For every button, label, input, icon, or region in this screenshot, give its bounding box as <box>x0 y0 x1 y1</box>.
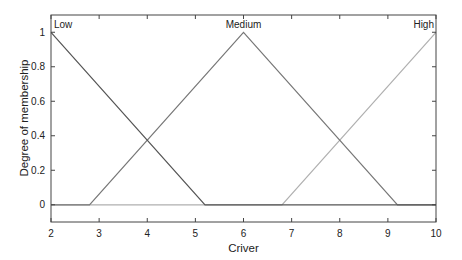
y-tick-label: 0.4 <box>31 130 45 141</box>
axes-frame <box>51 15 436 222</box>
series-lines <box>51 32 436 205</box>
x-tick-label: 7 <box>289 228 295 239</box>
mf-label-medium: Medium <box>226 19 262 30</box>
series-high <box>51 32 436 205</box>
x-tick-label: 4 <box>144 228 150 239</box>
x-tick-label: 8 <box>337 228 343 239</box>
x-tick-label: 9 <box>385 228 391 239</box>
series-medium <box>51 32 436 205</box>
mf-label-low: Low <box>54 19 73 30</box>
x-tick-label: 5 <box>193 228 199 239</box>
y-tick-label: 0.2 <box>31 165 45 176</box>
y-axis-label: Degree of membership <box>18 60 30 177</box>
mf-labels: LowMediumHigh <box>54 19 434 30</box>
series-low <box>51 32 436 205</box>
membership-chart: 2345678910 00.20.40.60.81 LowMediumHigh … <box>0 0 462 260</box>
y-axis-ticks: 00.20.40.60.81 <box>31 27 436 211</box>
x-tick-label: 10 <box>430 228 442 239</box>
y-tick-label: 0.6 <box>31 96 45 107</box>
y-tick-label: 0.8 <box>31 61 45 72</box>
y-tick-label: 0 <box>39 199 45 210</box>
y-tick-label: 1 <box>39 27 45 38</box>
x-tick-label: 2 <box>48 228 54 239</box>
x-axis-label: Criver <box>228 242 259 254</box>
mf-label-high: High <box>413 19 434 30</box>
x-tick-label: 3 <box>96 228 102 239</box>
x-tick-label: 6 <box>241 228 247 239</box>
